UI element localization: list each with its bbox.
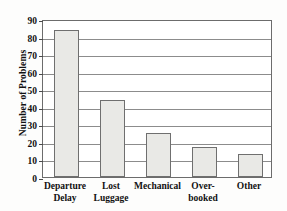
y-axis-tick-label: 30 [28,121,38,131]
x-axis-label-line: Delay [42,193,88,205]
y-axis-title: Number of Problems [18,18,28,168]
bar [54,30,79,177]
x-axis-label-line: booked [180,193,226,205]
x-axis-label: LostLuggage [88,181,134,204]
y-axis-tick-label: 50 [28,86,38,96]
bar [192,147,217,177]
x-axis-label: Over-booked [180,181,226,204]
x-axis-label-line: Lost [88,181,134,193]
y-axis-tick-mark [39,56,43,57]
y-axis-tick-label: 70 [28,51,38,61]
y-axis-tick-mark [39,161,43,162]
y-axis-tick-mark [39,91,43,92]
x-axis-label-line: Luggage [88,193,134,205]
x-axis-label: Other [226,181,272,193]
y-axis-tick-label: 60 [28,69,38,79]
y-axis-tick-mark [39,39,43,40]
bar [100,100,125,177]
x-axis-label-line: Over- [180,181,226,193]
bar-chart-figure: Number of Problems 0102030405060708090 D… [0,0,287,211]
x-axis-label-line: Departure [42,181,88,193]
y-axis-tick-label: 20 [28,139,38,149]
y-axis-tick-mark [39,144,43,145]
y-axis-tick-mark [39,74,43,75]
y-axis-tick-label: 10 [28,156,38,166]
x-axis-label: DepartureDelay [42,181,88,204]
x-axis-label-line: Other [226,181,272,193]
y-axis-tick-label: 80 [28,34,38,44]
bar [146,133,171,177]
bar [238,154,263,177]
x-axis-label-line: Mechanical [134,181,180,193]
x-axis-label: Mechanical [134,181,180,193]
y-axis-tick-mark [39,126,43,127]
y-axis-tick-label: 90 [28,16,38,26]
y-axis-tick-label: 40 [28,104,38,114]
y-axis-tick-label: 0 [32,174,37,184]
plot-area: 0102030405060708090 [42,20,272,178]
y-axis-tick-mark [39,179,43,180]
y-axis-tick-mark [39,109,43,110]
y-axis-tick-mark [39,21,43,22]
